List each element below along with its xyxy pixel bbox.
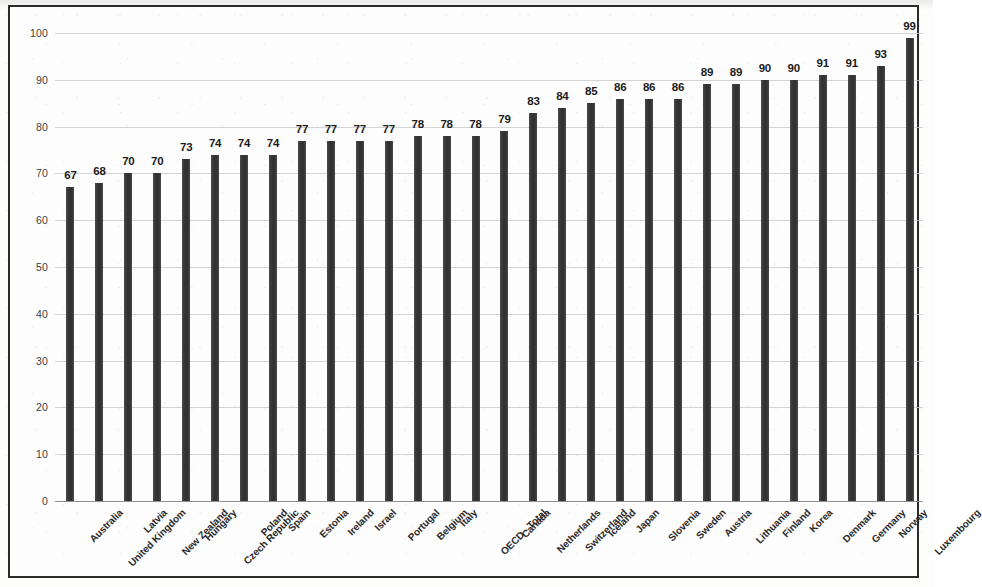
bar[interactable] xyxy=(443,136,451,501)
bar[interactable] xyxy=(356,141,364,501)
x-axis-tick-label: Ireland xyxy=(345,507,375,537)
y-axis-tick-label: 60 xyxy=(10,214,48,226)
bar-value-label: 74 xyxy=(200,137,230,149)
y-axis-tick-label: 50 xyxy=(10,261,48,273)
bar[interactable] xyxy=(645,99,653,501)
bar-value-label: 89 xyxy=(692,66,722,78)
bar[interactable] xyxy=(327,141,335,501)
bar[interactable] xyxy=(703,84,711,501)
x-axis-tick-label: Estonia xyxy=(317,507,350,540)
y-axis-tick-label: 30 xyxy=(10,355,48,367)
bar[interactable] xyxy=(848,75,856,501)
x-axis-labels: AustraliaUnited KingdomLatviaNew Zealand… xyxy=(55,503,923,587)
bar[interactable] xyxy=(790,80,798,501)
x-axis-tick-label: Luxembourg xyxy=(932,507,982,557)
bar-value-label: 99 xyxy=(895,20,925,32)
bar-value-label: 85 xyxy=(576,85,606,97)
gridline xyxy=(55,33,923,34)
bar[interactable] xyxy=(269,155,277,501)
bar[interactable] xyxy=(182,159,190,501)
bar-value-label: 77 xyxy=(316,123,346,135)
y-axis-tick-label: 70 xyxy=(10,167,48,179)
bar-value-label: 67 xyxy=(55,169,85,181)
bar[interactable] xyxy=(385,141,393,501)
chart-frame: 0102030405060708090100 67687070737474747… xyxy=(8,5,919,578)
bar-value-label: 68 xyxy=(84,165,114,177)
y-axis: 0102030405060708090100 xyxy=(10,33,50,501)
y-axis-tick-label: 80 xyxy=(10,121,48,133)
bar-value-label: 74 xyxy=(258,137,288,149)
bar-value-label: 86 xyxy=(634,81,664,93)
bar[interactable] xyxy=(587,103,595,501)
bar-value-label: 79 xyxy=(489,113,519,125)
bar-value-label: 78 xyxy=(403,118,433,130)
bar[interactable] xyxy=(616,99,624,501)
bar[interactable] xyxy=(153,173,161,501)
bar[interactable] xyxy=(211,155,219,501)
bar-value-label: 78 xyxy=(432,118,462,130)
bar-value-label: 86 xyxy=(663,81,693,93)
y-axis-tick-label: 90 xyxy=(10,74,48,86)
axis-baseline xyxy=(55,501,923,502)
y-axis-tick-label: 0 xyxy=(10,495,48,507)
bar-value-label: 77 xyxy=(345,123,375,135)
bar[interactable] xyxy=(66,187,74,501)
bar-value-label: 89 xyxy=(721,66,751,78)
bar-value-label: 77 xyxy=(287,123,317,135)
bar-value-label: 73 xyxy=(171,141,201,153)
bar[interactable] xyxy=(298,141,306,501)
plot-area: 6768707073747474777777777878787983848586… xyxy=(55,33,923,501)
bar-value-label: 91 xyxy=(837,57,867,69)
bar[interactable] xyxy=(240,155,248,501)
bar[interactable] xyxy=(674,99,682,501)
bar-value-label: 93 xyxy=(866,48,896,60)
bar-value-label: 77 xyxy=(374,123,404,135)
bar[interactable] xyxy=(95,183,103,501)
bar[interactable] xyxy=(472,136,480,501)
bar-value-label: 91 xyxy=(808,57,838,69)
x-axis-tick-label: Australia xyxy=(88,507,125,544)
bar[interactable] xyxy=(414,136,422,501)
bar-value-label: 70 xyxy=(142,155,172,167)
bar[interactable] xyxy=(906,38,914,501)
x-axis-tick-label: Japan xyxy=(634,507,662,535)
x-axis-tick-label: Austria xyxy=(722,507,754,539)
bar[interactable] xyxy=(877,66,885,501)
x-axis-tick-label: Israel xyxy=(372,507,398,533)
bar-value-label: 90 xyxy=(779,62,809,74)
bar-value-label: 78 xyxy=(461,118,491,130)
bar-value-label: 84 xyxy=(547,90,577,102)
bar-value-label: 90 xyxy=(750,62,780,74)
x-axis-tick-label: Slovenia xyxy=(666,507,702,543)
y-axis-tick-label: 10 xyxy=(10,448,48,460)
bar-value-label: 70 xyxy=(113,155,143,167)
bar[interactable] xyxy=(124,173,132,501)
x-axis-tick-label: Korea xyxy=(807,507,834,534)
bar-value-label: 74 xyxy=(229,137,259,149)
bar[interactable] xyxy=(558,108,566,501)
bar[interactable] xyxy=(529,113,537,501)
bar[interactable] xyxy=(761,80,769,501)
bar[interactable] xyxy=(819,75,827,501)
bar-value-label: 83 xyxy=(518,95,548,107)
bar-value-label: 86 xyxy=(605,81,635,93)
y-axis-tick-label: 40 xyxy=(10,308,48,320)
y-axis-tick-label: 20 xyxy=(10,401,48,413)
x-axis-tick-label: Portugal xyxy=(405,507,441,543)
bar[interactable] xyxy=(500,131,508,501)
bar[interactable] xyxy=(732,84,740,501)
y-axis-tick-label: 100 xyxy=(10,27,48,39)
